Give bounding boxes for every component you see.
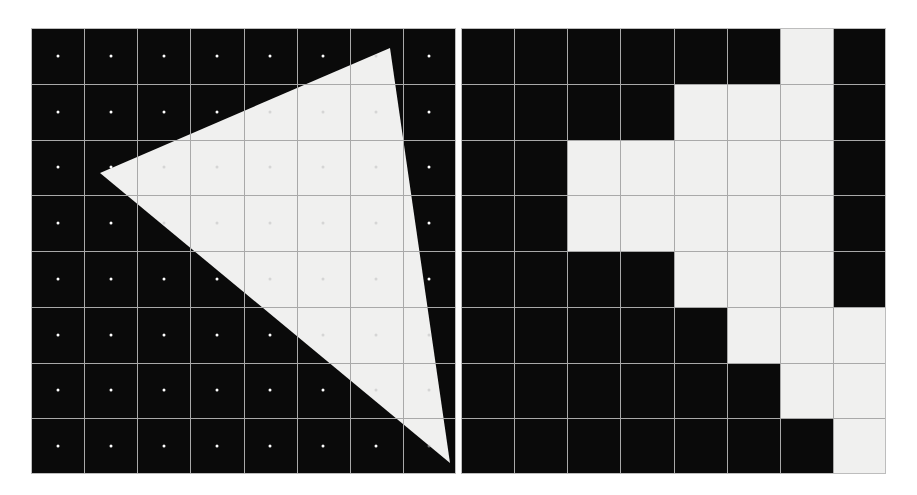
continuous-triangle-panel [31, 28, 456, 474]
raster-cell-off [567, 307, 620, 363]
sample-cell [350, 195, 403, 251]
raster-cell-off [514, 363, 567, 419]
sample-cell [84, 140, 137, 196]
raster-cell-off [620, 84, 673, 140]
sample-cell [350, 363, 403, 419]
raster-cell-off [833, 251, 886, 307]
raster-cell-off [620, 363, 673, 419]
sample-cell [350, 418, 403, 474]
raster-cell-off [514, 418, 567, 474]
raster-cell-on [674, 84, 727, 140]
raster-cell-on [674, 195, 727, 251]
raster-cell-on [833, 418, 886, 474]
raster-cell-on [780, 84, 833, 140]
raster-cell-off [620, 28, 673, 84]
sample-cell [137, 140, 190, 196]
raster-cell-off [567, 84, 620, 140]
raster-cell-off [620, 251, 673, 307]
raster-cell-off [514, 28, 567, 84]
raster-cell-off [461, 418, 514, 474]
sample-cell [137, 195, 190, 251]
raster-cell-off [727, 418, 780, 474]
sample-cell [190, 195, 243, 251]
raster-cell-off [514, 307, 567, 363]
raster-cell-off [514, 195, 567, 251]
sample-cell [403, 307, 456, 363]
rasterized-grid-panel [461, 28, 886, 474]
sample-cell [31, 84, 84, 140]
raster-cell-on [833, 363, 886, 419]
raster-cell-off [567, 363, 620, 419]
sample-cell [244, 140, 297, 196]
raster-cell-off [461, 363, 514, 419]
raster-cell-on [833, 307, 886, 363]
sample-cell [244, 251, 297, 307]
sample-cell [137, 28, 190, 84]
raster-cell-off [833, 195, 886, 251]
raster-cell-off [461, 307, 514, 363]
sample-cell [84, 195, 137, 251]
raster-cell-on [674, 251, 727, 307]
raster-cell-off [567, 251, 620, 307]
sample-cell [403, 28, 456, 84]
raster-cell-off [567, 418, 620, 474]
raster-cell-off [780, 418, 833, 474]
raster-cell-off [514, 251, 567, 307]
raster-cell-off [674, 28, 727, 84]
raster-cell-off [567, 28, 620, 84]
raster-cell-off [514, 84, 567, 140]
sample-cell [403, 418, 456, 474]
sample-cell [137, 418, 190, 474]
sample-cell [84, 418, 137, 474]
raster-cell-on [780, 363, 833, 419]
sample-cell [403, 84, 456, 140]
raster-cell-on [780, 195, 833, 251]
raster-cell-on [727, 140, 780, 196]
sample-cell [190, 418, 243, 474]
raster-cell-on [620, 195, 673, 251]
sample-cell [190, 28, 243, 84]
raster-cell-on [727, 195, 780, 251]
raster-cell-off [674, 363, 727, 419]
raster-cell-off [674, 307, 727, 363]
raster-cell-off [727, 28, 780, 84]
sample-cell [31, 28, 84, 84]
sample-cell [31, 195, 84, 251]
raster-cell-on [780, 28, 833, 84]
sample-cell [297, 363, 350, 419]
sample-cell [350, 307, 403, 363]
raster-cell-on [780, 307, 833, 363]
sample-cell [190, 363, 243, 419]
sample-cell [244, 195, 297, 251]
raster-cell-on [620, 140, 673, 196]
raster-cell-off [727, 363, 780, 419]
sample-cell [403, 251, 456, 307]
sample-cell [297, 195, 350, 251]
sample-cell [84, 251, 137, 307]
sample-cell [137, 84, 190, 140]
sample-cell [297, 307, 350, 363]
raster-cell-off [833, 84, 886, 140]
sample-cell [31, 418, 84, 474]
background-cells-continuous [31, 28, 456, 474]
sample-cell [350, 251, 403, 307]
sample-cell [31, 140, 84, 196]
sample-cell [137, 307, 190, 363]
sample-cell [350, 84, 403, 140]
sample-cell [403, 140, 456, 196]
sample-cell [190, 251, 243, 307]
raster-cell-off [461, 195, 514, 251]
raster-cell-off [514, 140, 567, 196]
sample-cell [137, 251, 190, 307]
sample-cell [350, 140, 403, 196]
raster-cell-on [674, 140, 727, 196]
raster-cell-off [461, 140, 514, 196]
raster-cell-on [727, 307, 780, 363]
sample-cell [244, 363, 297, 419]
sample-cell [297, 251, 350, 307]
sample-cell [403, 363, 456, 419]
raster-cell-off [461, 28, 514, 84]
raster-cell-off [620, 307, 673, 363]
sample-cell [31, 251, 84, 307]
sample-cell [190, 140, 243, 196]
